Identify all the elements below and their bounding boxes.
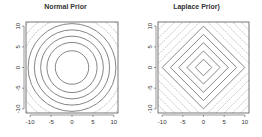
laplace-prior-plot: -10-50510-10-50510 xyxy=(131,0,262,137)
y-tick-label: 10 xyxy=(15,22,21,29)
x-tick-label: 0 xyxy=(70,119,74,125)
y-tick-label: 5 xyxy=(147,44,153,48)
y-tick-label: -10 xyxy=(147,104,153,113)
contour-line xyxy=(22,17,122,117)
contour-line xyxy=(28,24,116,112)
contour-line xyxy=(195,59,212,76)
contour-line xyxy=(55,51,88,84)
x-tick-label: -5 xyxy=(48,119,54,125)
x-tick-label: 5 xyxy=(223,119,227,125)
normal-prior-panel: Normal Prior -10-50510-10-50510 xyxy=(0,0,131,137)
laplace-prior-panel: Laplace Prior) -10-50510-10-50510 xyxy=(131,0,262,137)
y-tick-label: 10 xyxy=(147,22,153,29)
contour-line xyxy=(41,36,104,99)
y-tick-label: 5 xyxy=(15,44,21,48)
x-tick-label: -5 xyxy=(180,119,186,125)
x-tick-label: 0 xyxy=(202,119,206,125)
contour-line xyxy=(47,42,97,92)
y-tick-label: 0 xyxy=(15,65,21,69)
normal-prior-plot: -10-50510-10-50510 xyxy=(0,0,131,137)
contour-line xyxy=(170,34,236,100)
contour-line xyxy=(154,18,253,117)
plot-frame xyxy=(26,22,118,113)
y-tick-label: 0 xyxy=(147,65,153,69)
y-tick-label: -5 xyxy=(15,85,21,91)
x-tick-label: -10 xyxy=(26,119,35,125)
x-tick-label: -10 xyxy=(158,119,167,125)
x-tick-label: 10 xyxy=(110,119,117,125)
contour-line xyxy=(187,51,220,84)
contour-line xyxy=(146,10,262,126)
y-tick-label: -5 xyxy=(147,85,153,91)
y-tick-label: -10 xyxy=(15,104,21,113)
contour-line xyxy=(34,30,109,105)
plot-frame xyxy=(158,22,249,113)
contour-line xyxy=(16,11,129,124)
contour-lines xyxy=(9,5,131,130)
x-tick-label: 10 xyxy=(242,119,249,125)
contour-line xyxy=(179,43,229,93)
x-tick-label: 5 xyxy=(91,119,95,125)
